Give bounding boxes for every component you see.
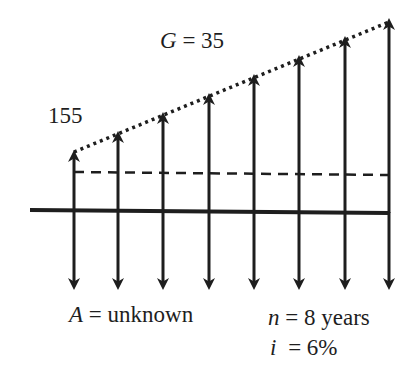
rate-eq: = 6% (282, 335, 337, 360)
rate-var: i (270, 335, 276, 360)
base-value-label: 155 (48, 104, 83, 127)
period-var: n (268, 305, 280, 330)
annuity-dashed-line (74, 172, 389, 175)
cash-flow-diagram: G = 35 155 A = unknown n = 8 years i = 6… (0, 0, 408, 373)
rate-label: i = 6% (270, 336, 338, 359)
up-arrows (74, 24, 389, 213)
gradient-dotted-line (74, 22, 389, 152)
annuity-var: A (69, 302, 83, 327)
annuity-eq: = unknown (83, 302, 193, 327)
gradient-var: G (160, 28, 177, 53)
gradient-eq: = 35 (177, 28, 224, 53)
gradient-label: G = 35 (160, 29, 224, 52)
period-eq: = 8 years (280, 305, 370, 330)
period-label: n = 8 years (268, 306, 370, 329)
annuity-label: A = unknown (69, 303, 193, 326)
down-arrows (74, 210, 389, 284)
